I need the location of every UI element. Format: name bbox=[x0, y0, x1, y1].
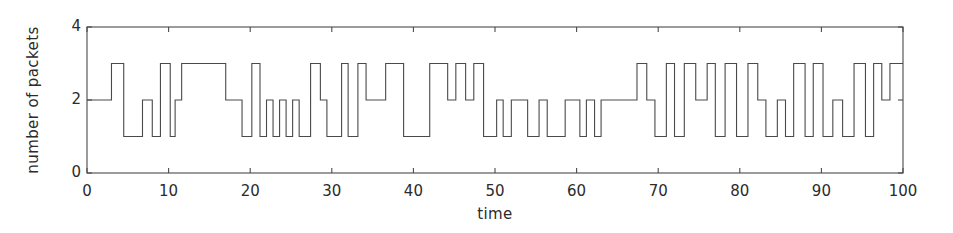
x-tick-label: 90 bbox=[812, 182, 831, 200]
x-tick-label: 70 bbox=[649, 182, 668, 200]
x-tick-label: 10 bbox=[159, 182, 178, 200]
x-tick-label: 40 bbox=[404, 182, 423, 200]
x-tick-label: 100 bbox=[889, 182, 918, 200]
x-tick-label: 30 bbox=[322, 182, 341, 200]
x-tick-label: 50 bbox=[485, 182, 504, 200]
x-tick-label: 20 bbox=[241, 182, 260, 200]
x-axis-label: time bbox=[87, 205, 903, 223]
step-plot bbox=[0, 0, 953, 233]
x-tick-label: 80 bbox=[730, 182, 749, 200]
figure-canvas: number of packets 024 010203040506070809… bbox=[0, 0, 953, 233]
x-tick-label: 0 bbox=[82, 182, 92, 200]
packet-count-series bbox=[87, 64, 903, 137]
x-tick-label: 60 bbox=[567, 182, 586, 200]
